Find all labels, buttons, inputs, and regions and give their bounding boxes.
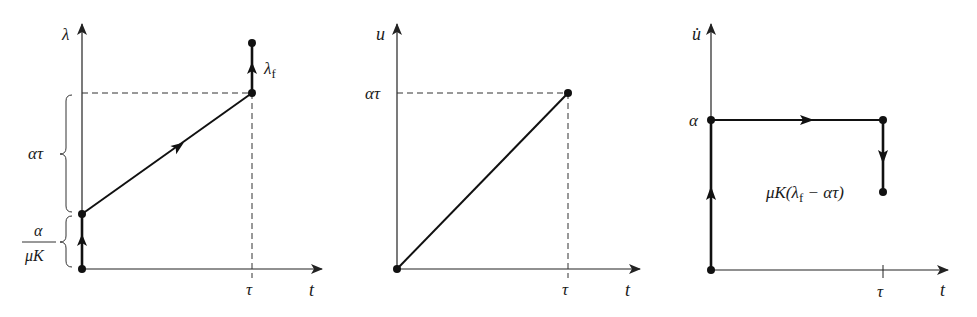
x-axis-label: t xyxy=(309,280,315,300)
x-tick-label: τ xyxy=(246,280,253,299)
fraction-denominator: μK xyxy=(24,247,45,265)
fraction-numerator: α xyxy=(34,222,43,239)
point-tau xyxy=(564,89,572,97)
y-axis-label: u̇ xyxy=(692,24,701,44)
y-axis-label: u xyxy=(376,24,385,44)
y-tick-label: α xyxy=(689,111,699,130)
x-tick-label: τ xyxy=(877,282,884,301)
brace-upper-label: ατ xyxy=(28,144,44,163)
panel-lambda: λ t τ ατ α μK λf xyxy=(22,24,322,300)
lambda-f-label: λf xyxy=(263,59,276,81)
point-final xyxy=(879,188,887,196)
trajectory-ramp xyxy=(397,93,568,269)
brace-upper xyxy=(60,95,72,212)
x-tick-label: τ xyxy=(562,280,569,299)
x-axis-label: t xyxy=(625,280,631,300)
y-axis-label: λ xyxy=(61,25,69,44)
trajectory-ramp xyxy=(82,93,252,214)
panel-u-dot: u̇ t τ α μK(λf − ατ) xyxy=(689,24,948,301)
y-tick-label: ατ xyxy=(365,84,381,103)
panel-u: u t τ ατ xyxy=(365,24,640,300)
point-jump xyxy=(78,210,86,218)
point-final xyxy=(248,39,256,47)
brace-lower xyxy=(60,216,72,267)
point-origin xyxy=(393,265,401,273)
point-alpha xyxy=(707,116,715,124)
x-axis-label: t xyxy=(940,280,946,300)
point-tau xyxy=(248,89,256,97)
point-tau xyxy=(879,116,887,124)
diagram-canvas: λ t τ ατ α μK λf u t τ ατ u̇ xyxy=(0,0,977,317)
point-origin xyxy=(78,265,86,273)
point-origin xyxy=(707,266,715,274)
end-value-label: μK(λf − ατ) xyxy=(765,183,844,205)
